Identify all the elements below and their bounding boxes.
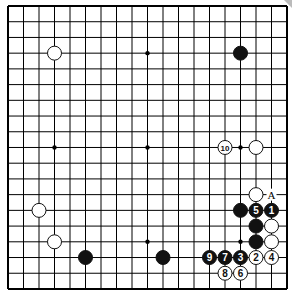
page-corner-fold bbox=[284, 0, 292, 8]
white-stone bbox=[265, 235, 279, 249]
stone-shape bbox=[234, 46, 248, 60]
white-stone bbox=[265, 219, 279, 233]
marker-label: A bbox=[268, 189, 276, 201]
white-stone: 4 bbox=[265, 251, 279, 265]
star-point bbox=[238, 240, 242, 244]
star-point bbox=[238, 145, 242, 149]
stone-shape bbox=[265, 235, 279, 249]
stone-shape bbox=[249, 219, 263, 233]
board-markers: A bbox=[267, 189, 277, 201]
black-stone: 5 bbox=[249, 203, 263, 217]
white-stone: 8 bbox=[218, 266, 232, 280]
star-point bbox=[145, 145, 149, 149]
move-number: 3 bbox=[238, 252, 244, 263]
move-number: 5 bbox=[253, 205, 259, 216]
black-stone bbox=[249, 235, 263, 249]
black-stone bbox=[249, 219, 263, 233]
stone-shape bbox=[234, 203, 248, 217]
move-number: 9 bbox=[207, 252, 213, 263]
go-board: A 10519732486 bbox=[0, 0, 292, 296]
white-stone: 2 bbox=[249, 251, 263, 265]
move-number: 2 bbox=[253, 252, 259, 263]
black-stone: 7 bbox=[218, 251, 232, 265]
star-point bbox=[145, 240, 149, 244]
white-stone bbox=[48, 235, 62, 249]
stone-shape bbox=[156, 251, 170, 265]
stone-shape bbox=[48, 46, 62, 60]
stone-shape bbox=[32, 203, 46, 217]
star-point bbox=[52, 145, 56, 149]
stone-shape bbox=[265, 219, 279, 233]
black-stone bbox=[234, 203, 248, 217]
move-number: 6 bbox=[238, 268, 244, 279]
black-stone bbox=[79, 251, 93, 265]
move-number: 10 bbox=[221, 144, 230, 153]
stone-shape bbox=[249, 235, 263, 249]
stone-shape bbox=[79, 251, 93, 265]
white-stone: 6 bbox=[234, 266, 248, 280]
white-stone bbox=[249, 188, 263, 202]
stone-shape bbox=[48, 235, 62, 249]
black-stone: 9 bbox=[203, 251, 217, 265]
white-stone bbox=[32, 203, 46, 217]
white-stone bbox=[249, 140, 263, 154]
stone-shape bbox=[249, 140, 263, 154]
move-number: 8 bbox=[222, 268, 228, 279]
white-stone bbox=[48, 46, 62, 60]
black-stone: 1 bbox=[265, 203, 279, 217]
star-point bbox=[145, 51, 149, 55]
move-number: 7 bbox=[222, 252, 228, 263]
move-number: 1 bbox=[269, 205, 275, 216]
black-stone bbox=[156, 251, 170, 265]
black-stone bbox=[234, 46, 248, 60]
stone-shape bbox=[249, 188, 263, 202]
move-number: 4 bbox=[269, 252, 275, 263]
white-stone: 10 bbox=[218, 140, 232, 154]
black-stone: 3 bbox=[234, 251, 248, 265]
